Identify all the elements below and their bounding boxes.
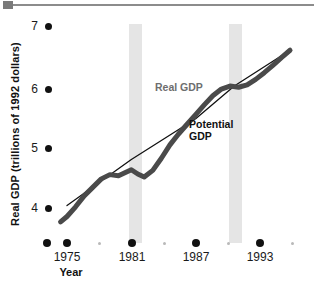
x-tick-label-1981: 1981	[109, 250, 155, 264]
x-tick-dot-minor-1996	[291, 242, 294, 245]
x-tick-dot-1993	[256, 239, 264, 247]
gdp-chart-figure: 7 6 5 4 Real GDP (trillions of 1992 doll…	[0, 0, 316, 287]
real-gdp-line	[61, 50, 290, 222]
x-tick-label-1993: 1993	[237, 250, 283, 264]
x-tick-dot-minor-1990	[227, 242, 230, 245]
x-tick-dot-1981	[128, 239, 136, 247]
x-tick-dot-minor-1984	[163, 242, 166, 245]
x-tick-label-1975: 1975	[44, 250, 90, 264]
potential-gdp-label-line2: GDP	[189, 130, 233, 142]
plot-area: 7 6 5 4 Real GDP (trillions of 1992 doll…	[0, 0, 316, 287]
potential-gdp-label-line1: Potential	[189, 118, 233, 130]
x-axis-title: Year	[48, 266, 94, 278]
real-gdp-label: Real GDP	[155, 81, 203, 93]
x-axis-origin-dot	[43, 239, 51, 247]
potential-gdp-label: Potential GDP	[189, 118, 233, 142]
x-tick-label-1987: 1987	[173, 250, 219, 264]
x-tick-dot-1975	[63, 239, 71, 247]
x-tick-dot-minor-1978	[98, 242, 101, 245]
x-tick-dot-1987	[192, 239, 200, 247]
